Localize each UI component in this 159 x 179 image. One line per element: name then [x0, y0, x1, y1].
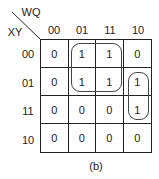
cell: 0 [41, 124, 69, 152]
col-label-11: 11 [96, 24, 124, 36]
cell: 1 [69, 68, 97, 96]
cell: 1 [96, 40, 124, 68]
caption: (b) [81, 160, 111, 172]
cell: 0 [124, 40, 152, 68]
col-var-label: WQ [20, 6, 42, 18]
cell: 0 [41, 40, 69, 68]
cell: 1 [96, 68, 124, 96]
cell: 0 [96, 124, 124, 152]
row-var-label: XY [4, 26, 26, 38]
cell: 0 [96, 96, 124, 124]
cell: 0 [41, 96, 69, 124]
row-label-01: 01 [18, 77, 38, 89]
cell: 0 [41, 68, 69, 96]
col-label-01: 01 [68, 24, 96, 36]
cell: 1 [69, 40, 97, 68]
row-label-10: 10 [18, 134, 38, 146]
cell: 0 [124, 124, 152, 152]
col-label-00: 00 [40, 24, 68, 36]
cell: 1 [124, 68, 152, 96]
row-label-11: 11 [18, 105, 38, 117]
cell: 1 [124, 96, 152, 124]
row-label-00: 00 [18, 48, 38, 60]
cell: 0 [69, 124, 97, 152]
cell: 0 [69, 96, 97, 124]
kmap-grid: 0 1 1 0 0 1 1 1 0 0 0 1 0 0 0 0 [40, 39, 152, 153]
col-label-10: 10 [124, 24, 152, 36]
